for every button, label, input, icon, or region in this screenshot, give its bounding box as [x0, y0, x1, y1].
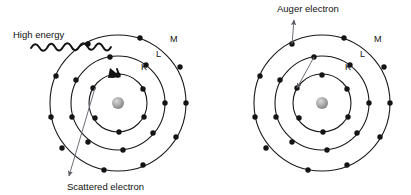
left-shell-label-k: K [141, 62, 147, 72]
left-atom: M L K High energy Scattered electron [13, 29, 189, 192]
right-atom: M L K Auger electron [252, 3, 392, 173]
diagram-canvas: M L K High energy Scattered electron [0, 0, 411, 195]
right-shell-label-k: K [345, 62, 351, 72]
scattered-electron-label: Scattered electron [67, 181, 144, 192]
left-shell-label-m: M [170, 34, 178, 44]
high-energy-label: High energy [13, 29, 64, 40]
right-shell-label-l: L [360, 49, 365, 59]
left-nucleus [112, 97, 124, 109]
high-energy-photon-wave [31, 43, 111, 51]
scattered-electron-arrow [69, 88, 95, 176]
right-nucleus [316, 97, 328, 109]
left-shell-label-l: L [156, 49, 161, 59]
auger-electron-label: Auger electron [277, 3, 339, 14]
atom-diagram-figure: M L K High energy Scattered electron [0, 0, 411, 195]
right-shell-label-m: M [374, 34, 382, 44]
auger-electron-arrow [292, 20, 294, 44]
